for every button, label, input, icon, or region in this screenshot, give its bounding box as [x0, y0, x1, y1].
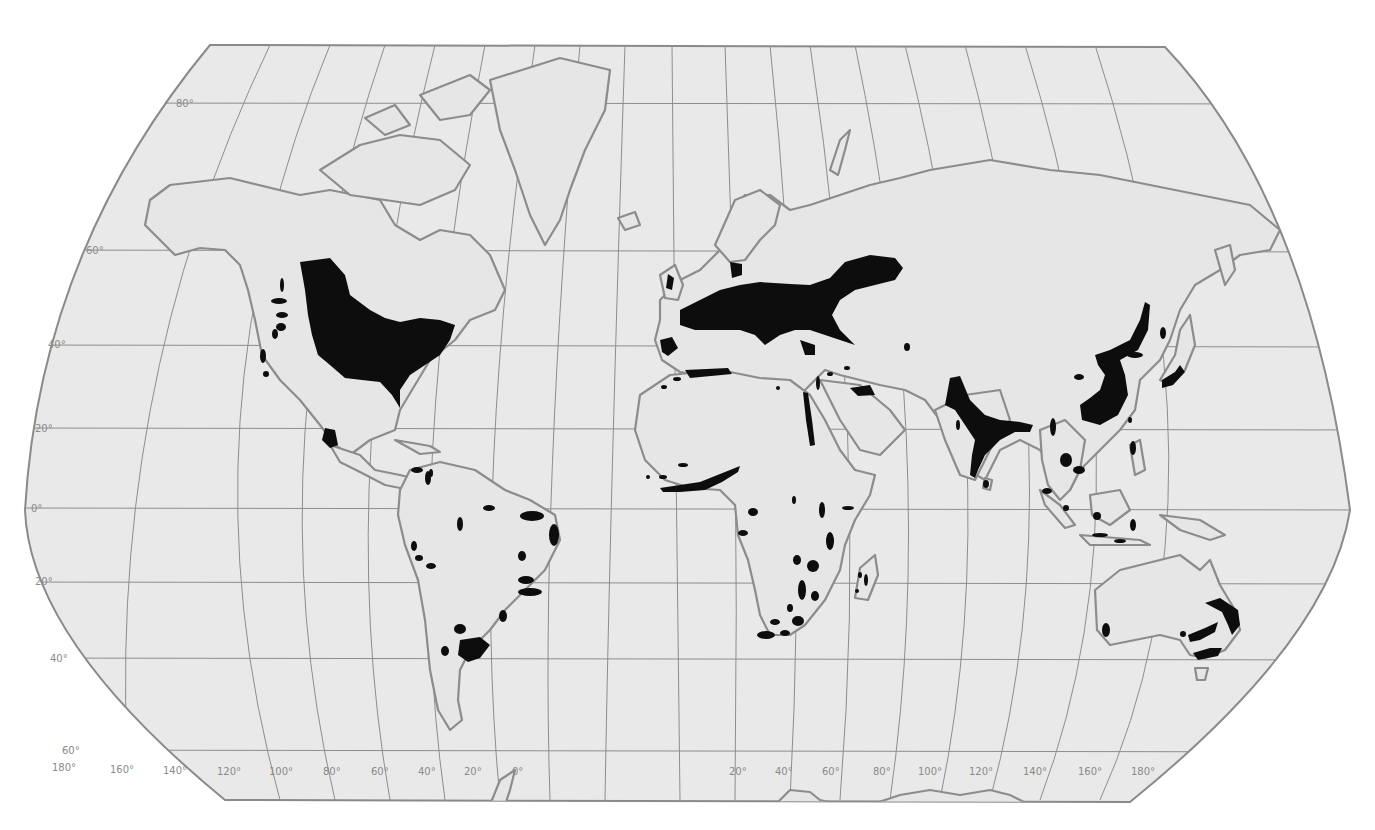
lon-label-100w: 100°	[269, 766, 293, 777]
lon-label-120w: 120°	[217, 766, 241, 777]
lat-label-s40: 40°	[50, 653, 68, 664]
lon-label-40w: 40°	[418, 766, 436, 777]
lon-label-80e: 80°	[873, 766, 891, 777]
lon-label-40e: 40°	[775, 766, 793, 777]
lon-label-80w: 80°	[323, 766, 341, 777]
lon-label-20e: 20°	[729, 766, 747, 777]
lat-label-s20: 20°	[35, 576, 53, 587]
lat-label-s60: 60°	[62, 745, 80, 756]
lon-label-100e: 100°	[918, 766, 942, 777]
region-madagascar	[858, 572, 862, 578]
lon-label-160w: 160°	[110, 764, 134, 775]
lat-label-20: 20°	[35, 423, 53, 434]
region-southeast-asia	[1050, 418, 1056, 436]
lon-label-0: 0°	[512, 766, 523, 777]
lon-label-180e: 180°	[1131, 766, 1155, 777]
lon-label-120e: 120°	[969, 766, 993, 777]
lon-label-140e: 140°	[1023, 766, 1047, 777]
lon-label-160e: 160°	[1078, 766, 1102, 777]
region-east-southern-africa	[748, 508, 758, 516]
lon-label-60w: 60°	[371, 766, 389, 777]
lat-label-40: 40°	[48, 339, 66, 350]
region-south-america	[483, 505, 495, 511]
lon-label-20w: 20°	[464, 766, 482, 777]
lon-label-60e: 60°	[822, 766, 840, 777]
world-map: 80° 60° 40° 20° 0° 20° 40° 60° 180° 160°…	[0, 0, 1375, 830]
lon-label-180w: 180°	[52, 762, 76, 773]
lat-label-60: 60°	[86, 245, 104, 256]
lon-label-140w: 140°	[163, 765, 187, 776]
lat-label-0: 0°	[31, 503, 42, 514]
lat-label-80: 80°	[176, 98, 194, 109]
